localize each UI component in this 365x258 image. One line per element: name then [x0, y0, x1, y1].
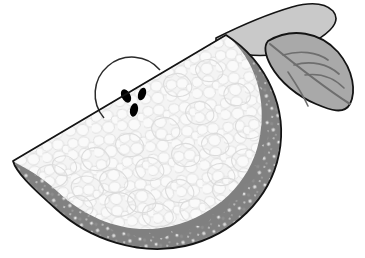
leaf — [265, 33, 353, 110]
leaf-body — [265, 33, 353, 110]
melon-wedge — [13, 35, 281, 249]
illustration-stage — [0, 0, 365, 258]
melon-slice-illustration — [0, 0, 365, 258]
